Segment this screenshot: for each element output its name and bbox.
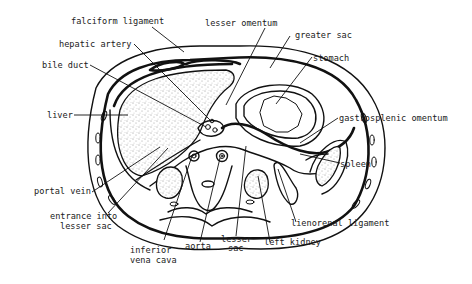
label-spleen: spleen — [340, 159, 371, 169]
label-stomach: stomach — [313, 53, 349, 63]
great-vessels — [189, 151, 228, 162]
stomach-shape — [236, 85, 324, 146]
label-gastrosplenic-omentum: gastrosplenic omentum — [339, 113, 448, 123]
label-ivc-line2: vena cava — [130, 255, 177, 265]
label-lesser-sac-line2: sac — [228, 243, 244, 253]
label-ivc-line1: inferior — [130, 245, 171, 255]
label-bile-duct: bile duct — [42, 60, 89, 70]
label-greater-sac: greater sac — [295, 30, 352, 40]
label-lesser-omentum: lesser omentum — [205, 18, 277, 28]
label-entrance-line1: entrance into — [50, 211, 117, 221]
label-lienorenal-ligament: lienorenal ligament — [291, 218, 389, 228]
label-entrance-line2: lesser sac — [60, 221, 112, 231]
left-kidney-shape — [244, 170, 268, 198]
label-hepatic-artery: hepatic artery — [59, 39, 131, 49]
label-portal-vein: portal vein — [34, 186, 91, 196]
label-liver: liver — [47, 110, 73, 120]
abdominal-cross-section-diagram: falciform ligament lesser omentum hepati… — [0, 0, 472, 284]
right-structure-shape — [156, 167, 182, 198]
label-falciform-ligament: falciform ligament — [71, 16, 164, 26]
label-aorta: aorta — [185, 241, 211, 251]
label-left-kidney: left kidney — [264, 237, 321, 247]
